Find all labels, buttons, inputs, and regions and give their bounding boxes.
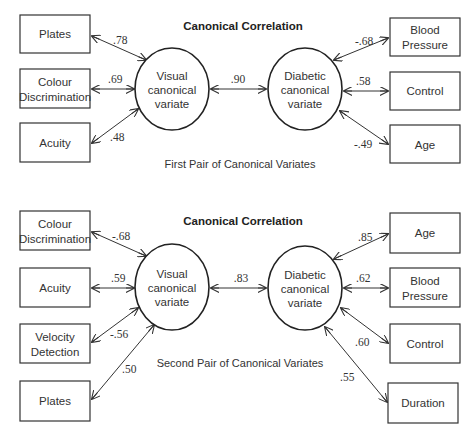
diagram-caption: First Pair of Canonical Variates — [165, 158, 316, 170]
variable-box-age: Age — [390, 213, 460, 253]
svg-text:Plates: Plates — [39, 395, 71, 407]
svg-text:canonical: canonical — [148, 282, 197, 294]
svg-text:canonical: canonical — [281, 283, 330, 295]
visual-canonical-variate: Visual canonical variate — [135, 244, 209, 330]
svg-text:canonical: canonical — [148, 84, 197, 96]
diabetic-canonical-variate: Diabetic canonical variate — [268, 246, 342, 330]
variable-box-blood-pressure: Blood Pressure — [390, 18, 460, 56]
svg-text:Discrimination: Discrimination — [19, 233, 91, 245]
loading-value: .85 — [358, 231, 373, 243]
svg-text:Duration: Duration — [401, 397, 444, 409]
svg-text:Plates: Plates — [39, 28, 71, 40]
svg-text:variate: variate — [288, 98, 323, 110]
loading-value: .69 — [108, 73, 123, 85]
loading-value: .48 — [110, 131, 125, 143]
variable-box-control: Control — [390, 72, 460, 110]
loading-value: -.68 — [355, 35, 373, 47]
svg-text:Colour: Colour — [38, 76, 72, 88]
loading-value: .62 — [356, 272, 371, 284]
svg-text:Blood: Blood — [410, 24, 439, 36]
svg-text:Visual: Visual — [156, 268, 187, 280]
loading-value: -.68 — [112, 230, 130, 242]
variable-box-age: Age — [390, 125, 460, 163]
first-pair-diagram: Canonical Correlation Plates Colour Disc… — [19, 15, 460, 170]
canonical-correlation-diagram: Canonical Correlation Plates Colour Disc… — [0, 0, 473, 440]
svg-text:Control: Control — [406, 85, 443, 97]
svg-text:Control: Control — [406, 338, 443, 350]
variable-box-control: Control — [390, 324, 460, 363]
svg-text:Pressure: Pressure — [402, 39, 448, 51]
second-pair-diagram: Canonical Correlation Colour Discriminat… — [19, 211, 460, 423]
variable-box-colour-discrimination: Colour Discrimination — [19, 211, 91, 250]
variable-box-blood-pressure: Blood Pressure — [390, 268, 460, 307]
variable-box-duration: Duration — [388, 383, 458, 423]
svg-text:canonical: canonical — [281, 84, 330, 96]
variable-box-colour-discrimination: Colour Discrimination — [19, 69, 91, 108]
canonical-correlation-value: .90 — [231, 73, 246, 85]
svg-text:Discrimination: Discrimination — [19, 91, 91, 103]
svg-text:variate: variate — [155, 98, 190, 110]
svg-text:Diabetic: Diabetic — [284, 269, 326, 281]
svg-text:variate: variate — [155, 296, 190, 308]
loading-value: .58 — [356, 75, 371, 87]
svg-text:Pressure: Pressure — [402, 290, 448, 302]
svg-text:Age: Age — [415, 227, 435, 239]
loading-value: .50 — [122, 363, 137, 375]
loading-value: .59 — [111, 272, 126, 284]
loading-value: .60 — [355, 336, 370, 348]
diabetic-canonical-variate: Diabetic canonical variate — [268, 48, 342, 130]
canonical-correlation-value: .83 — [234, 272, 249, 284]
svg-text:Acuity: Acuity — [39, 137, 71, 149]
variable-box-acuity: Acuity — [20, 268, 90, 307]
loading-value: .55 — [340, 371, 355, 383]
svg-text:variate: variate — [288, 297, 323, 309]
svg-text:Age: Age — [415, 139, 435, 151]
svg-text:Detection: Detection — [31, 346, 80, 358]
diagram-title: Canonical Correlation — [183, 215, 303, 227]
variable-box-plates: Plates — [20, 15, 90, 53]
svg-text:Acuity: Acuity — [39, 282, 71, 294]
variable-box-acuity: Acuity — [20, 123, 90, 162]
diagram-caption: Second Pair of Canonical Variates — [157, 357, 324, 369]
svg-text:Blood: Blood — [410, 275, 439, 287]
visual-canonical-variate: Visual canonical variate — [135, 48, 209, 130]
variable-box-plates: Plates — [20, 381, 90, 421]
variable-box-velocity-detection: Velocity Detection — [20, 324, 90, 363]
svg-text:Velocity: Velocity — [35, 331, 75, 343]
loading-value: -.56 — [110, 328, 128, 340]
svg-text:Visual: Visual — [156, 70, 187, 82]
svg-text:Diabetic: Diabetic — [284, 70, 326, 82]
loading-value: -.49 — [354, 138, 372, 150]
loading-value: .78 — [113, 34, 128, 46]
svg-text:Colour: Colour — [38, 218, 72, 230]
diagram-title: Canonical Correlation — [183, 20, 303, 32]
